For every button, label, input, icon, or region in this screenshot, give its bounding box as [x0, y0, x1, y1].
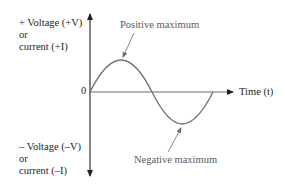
negative-label-line2: or [19, 153, 81, 165]
origin-label: 0 [81, 85, 86, 97]
y-axis-negative-label: – Voltage (–V) or current (–I) [19, 141, 81, 177]
x-axis-label: Time (t) [239, 86, 273, 98]
positive-label-line2: or [19, 29, 82, 41]
positive-label-line1: + Voltage (+V) [19, 17, 82, 29]
sine-wave-diagram: + Voltage (+V) or current (+I) – Voltage… [0, 0, 285, 184]
negative-max-pointer [168, 128, 181, 152]
positive-label-line3: current (+I) [19, 41, 82, 53]
negative-label-line1: – Voltage (–V) [19, 141, 81, 153]
positive-max-annotation: Positive maximum [120, 19, 199, 31]
negative-label-line3: current (–I) [19, 165, 81, 177]
y-axis-positive-label: + Voltage (+V) or current (+I) [19, 17, 82, 53]
positive-max-pointer [123, 33, 134, 57]
negative-max-annotation: Negative maximum [134, 154, 217, 166]
